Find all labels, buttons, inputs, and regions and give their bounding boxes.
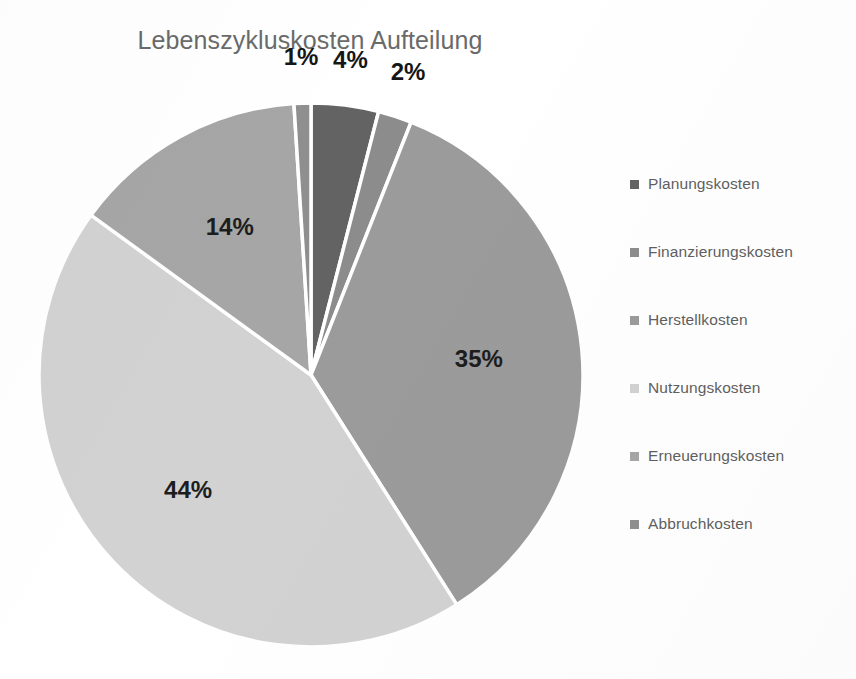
legend-swatch-icon	[630, 384, 639, 393]
legend-item[interactable]: Nutzungskosten	[630, 354, 850, 422]
pie-data-label: 1%	[284, 43, 319, 71]
legend-item[interactable]: Abbruchkosten	[630, 490, 850, 558]
pie-slice-group	[39, 103, 583, 647]
legend-swatch-icon	[630, 316, 639, 325]
legend-item-label: Planungskosten	[648, 175, 760, 193]
legend-item-label: Erneuerungskosten	[648, 447, 784, 465]
legend-item[interactable]: Planungskosten	[630, 150, 850, 218]
legend-item[interactable]: Finanzierungskosten	[630, 218, 850, 286]
pie-data-label: 44%	[164, 476, 212, 504]
pie-plot-area: 4%2%35%44%14%1%	[0, 0, 620, 679]
legend-swatch-icon	[630, 452, 639, 461]
pie-data-label: 14%	[206, 213, 254, 241]
pie-data-label: 4%	[333, 46, 368, 74]
legend-item-label: Finanzierungskosten	[648, 243, 793, 261]
legend: PlanungskostenFinanzierungskostenHerstel…	[630, 150, 850, 558]
legend-swatch-icon	[630, 180, 639, 189]
pie-data-label: 2%	[391, 58, 426, 86]
pie-chart-figure: Lebenszykluskosten Aufteilung 4%2%35%44%…	[0, 0, 856, 679]
legend-item[interactable]: Erneuerungskosten	[630, 422, 850, 490]
legend-swatch-icon	[630, 248, 639, 257]
legend-item[interactable]: Herstellkosten	[630, 286, 850, 354]
legend-swatch-icon	[630, 520, 639, 529]
pie-svg	[0, 0, 620, 679]
legend-item-label: Nutzungskosten	[648, 379, 761, 397]
legend-item-label: Abbruchkosten	[648, 515, 753, 533]
legend-item-label: Herstellkosten	[648, 311, 748, 329]
pie-data-label: 35%	[455, 345, 503, 373]
